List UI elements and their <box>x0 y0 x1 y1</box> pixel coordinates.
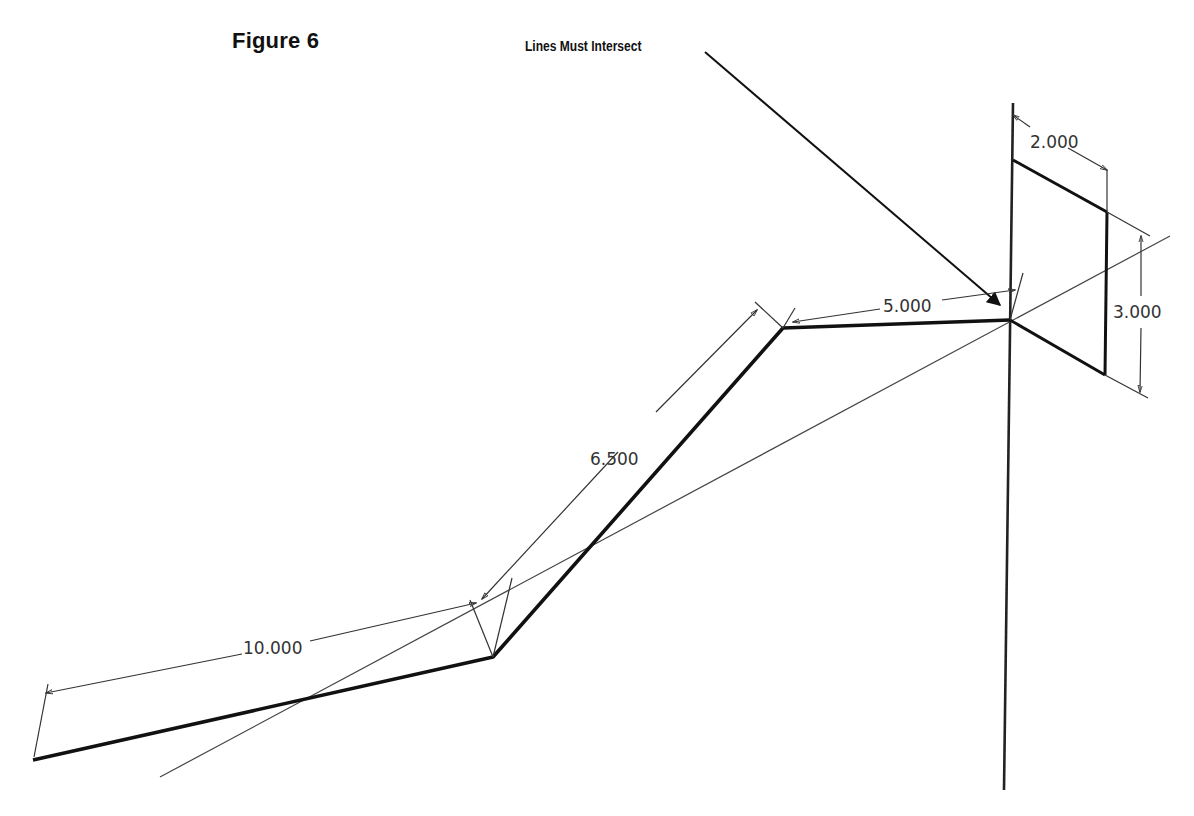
vertical-axis-line <box>1004 103 1013 790</box>
dimension-10 <box>34 600 493 757</box>
dimension-3-label: 3.000 <box>1113 302 1162 322</box>
dimension-5-label: 5.000 <box>883 296 932 316</box>
main-path <box>33 320 1010 760</box>
cad-sketch: 10.000 6.500 5.000 2.000 <box>0 0 1194 816</box>
figure-title: Figure 6 <box>232 28 319 54</box>
callout-arrow <box>705 52 1000 305</box>
dimension-6-5-label: 6.500 <box>590 449 639 469</box>
dimension-2 <box>1013 115 1107 212</box>
diagram-canvas: Figure 6 Lines Must Intersect <box>0 0 1194 816</box>
rectangle-profile <box>1010 160 1107 375</box>
dimension-10-label: 10.000 <box>243 638 302 658</box>
callout-label: Lines Must Intersect <box>525 38 641 54</box>
dimension-6-5 <box>482 302 783 657</box>
dimension-2-label: 2.000 <box>1030 132 1079 152</box>
